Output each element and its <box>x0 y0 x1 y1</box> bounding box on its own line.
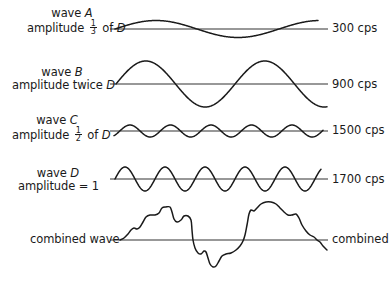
wave-a-prefix: wave <box>51 6 81 20</box>
combined-wave-label: combined wave <box>30 233 110 246</box>
wave-c-label: wave C amplitude 1 2 of D <box>12 114 102 142</box>
wave-d-letter: D <box>70 166 79 180</box>
wave-b-prefix: wave <box>41 65 71 79</box>
wave-b-amp-ref: D <box>106 78 115 92</box>
combined-wave <box>120 202 327 267</box>
wave-a-label: wave A amplitude 1 3 of D <box>27 7 117 35</box>
wave-d-prefix: wave <box>37 166 67 180</box>
wave-d-amp-prefix: amplitude = 1 <box>18 179 99 193</box>
wave-b-label: wave B amplitude twice D <box>12 66 112 92</box>
combined-end-label: combined <box>332 233 389 246</box>
wave-a-amp-prefix: amplitude <box>27 21 84 35</box>
wave-d-frequency: 1700 cps <box>332 173 385 186</box>
wave-c-amp-ref: D <box>102 128 111 142</box>
wave-b-frequency: 900 cps <box>332 78 377 91</box>
wave-a-letter: A <box>85 6 93 20</box>
fraction-one-half: 1 2 <box>75 127 82 142</box>
wave-a-frequency: 300 cps <box>332 22 377 35</box>
wave-c-amp-suffix: of <box>87 128 98 142</box>
wave-b-amp-prefix: amplitude twice <box>12 78 103 92</box>
wave-c-frequency: 1500 cps <box>332 124 385 137</box>
wave-c-prefix: wave <box>36 113 66 127</box>
fraction-one-third: 1 3 <box>90 20 97 35</box>
wave-a-amp-ref: D <box>117 21 126 35</box>
wave-paths <box>114 21 327 268</box>
wave-a-amp-suffix: of <box>102 21 113 35</box>
wave-d-label: wave D amplitude = 1 <box>18 167 98 193</box>
wave-c-amp-prefix: amplitude <box>12 128 69 142</box>
wave-c-letter: C <box>70 113 78 127</box>
wave-b-letter: B <box>75 65 83 79</box>
